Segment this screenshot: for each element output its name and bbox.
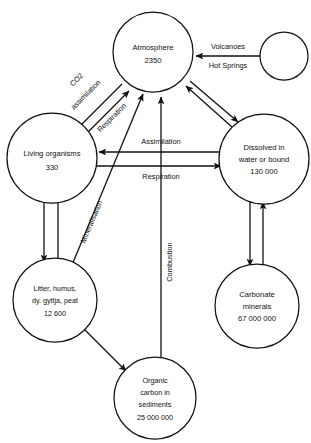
node-dissolved-label-1: Dissolved in xyxy=(244,143,285,152)
edge-label-co2: CO2 xyxy=(68,71,85,88)
edge-dissolved-to-atmosphere xyxy=(186,86,232,127)
node-living-organisms: Living organisms 330 xyxy=(7,113,97,203)
node-living-organisms-value: 330 xyxy=(46,163,59,172)
edge-atmosphere-to-dissolved xyxy=(190,81,238,122)
node-volcanic-source xyxy=(260,32,308,80)
edge-label-respiration: Respiration xyxy=(142,172,179,181)
node-carbonate: Carbonate minerals 67 000 000 xyxy=(215,264,299,348)
edge-label-mineralisation: Mineralisation xyxy=(78,199,104,245)
node-dissolved-label-2: water or bound xyxy=(238,155,290,164)
edge-label-combustion: Combustion xyxy=(165,242,174,281)
edge-label-hot-springs: Hot Springs xyxy=(209,61,248,70)
diagram-canvas: Volcanoes Hot Springs CO2 assimilation R… xyxy=(0,0,311,443)
node-sediments-label-3: sediments xyxy=(139,400,172,409)
edge-litter-to-sediments xyxy=(85,330,126,371)
node-atmosphere: Atmosphere 2350 xyxy=(113,12,193,92)
edge-respiration: Respiration xyxy=(97,166,221,181)
node-sediments-value: 25 000 000 xyxy=(137,413,173,422)
node-atmosphere-label: Atmosphere xyxy=(133,43,174,52)
node-living-organisms-label: Living organisms xyxy=(24,149,81,158)
edge-respiration-diagonal: Respiration xyxy=(84,91,129,136)
node-carbonate-label-1: Carbonate xyxy=(239,290,274,299)
node-atmosphere-value: 2350 xyxy=(145,56,162,65)
node-sediments-label-2: carbon in xyxy=(140,388,170,397)
carbon-cycle-diagram: Volcanoes Hot Springs CO2 assimilation R… xyxy=(0,0,311,443)
node-litter-label-1: Litter, humus, xyxy=(33,284,76,293)
edge-volcanoes-hot-springs: Volcanoes Hot Springs xyxy=(196,42,260,70)
node-litter-value: 12 600 xyxy=(44,309,66,318)
node-carbonate-label-2: minerals xyxy=(243,302,272,311)
node-atmosphere-circle xyxy=(113,12,193,92)
node-carbonate-value: 67 000 000 xyxy=(238,314,276,323)
node-dissolved-value: 130 000 xyxy=(250,167,277,176)
edge-label-assimilation: Assimilation xyxy=(141,137,180,146)
node-sediments: Organic carbon in sediments 25 000 000 xyxy=(114,357,196,439)
node-volcanic-source-circle xyxy=(260,32,308,80)
node-sediments-label-1: Organic xyxy=(142,376,168,385)
node-litter: Litter, humus, dy. gyttja, peat 12 600 xyxy=(13,258,97,342)
node-litter-label-2: dy. gyttja, peat xyxy=(32,296,78,305)
node-living-organisms-circle xyxy=(7,113,97,203)
edge-label-volcanoes: Volcanoes xyxy=(211,42,245,51)
node-sediments-circle xyxy=(114,357,196,439)
node-dissolved: Dissolved in water or bound 130 000 xyxy=(219,114,309,204)
